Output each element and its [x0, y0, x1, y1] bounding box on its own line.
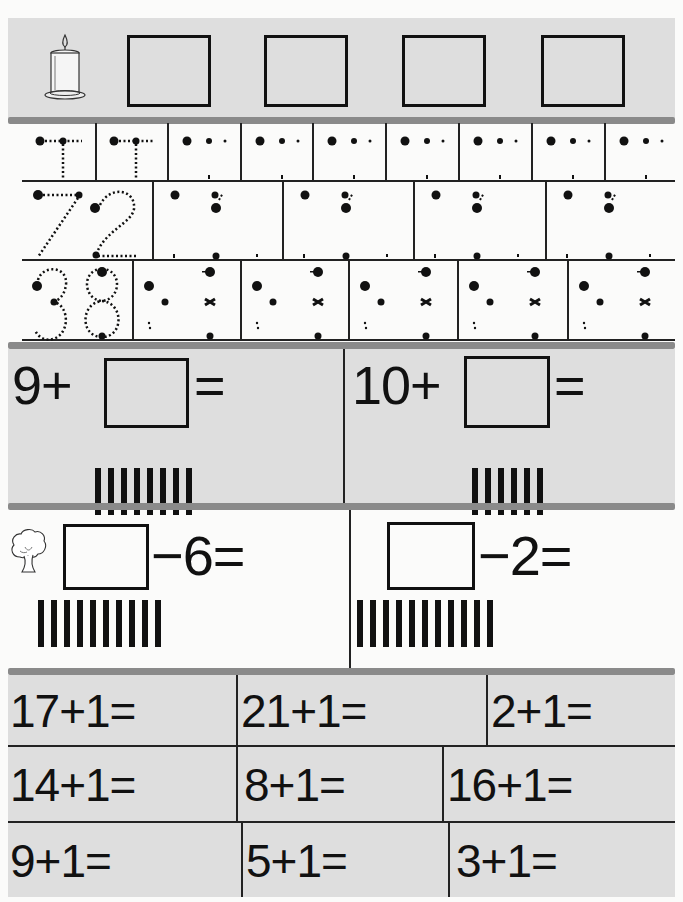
equation-right: −6= [151, 528, 245, 584]
trace-number-38-guide [0, 255, 135, 345]
equation: 21+1= [241, 688, 366, 734]
equation: 2+1= [491, 688, 592, 734]
tally-marks-10 [38, 600, 161, 647]
answer-box-4[interactable] [541, 35, 625, 107]
answer-box-sub-1[interactable] [63, 524, 149, 590]
equation: 14+1= [10, 762, 135, 808]
candle-icon [40, 32, 90, 102]
section-divider [8, 503, 675, 510]
equation: 5+1= [246, 838, 347, 884]
equation-right: −2= [478, 528, 572, 584]
answer-box-3[interactable] [402, 35, 486, 107]
tally-marks-11 [357, 600, 493, 647]
equation-left: 10+ [352, 358, 441, 412]
tree-icon [8, 527, 48, 577]
equation: 8+1= [244, 762, 345, 808]
panel-divider [343, 349, 345, 504]
trace-number-38-dots [132, 255, 682, 345]
answer-box-add-1[interactable] [104, 358, 189, 428]
panel-divider [349, 510, 351, 670]
trace-number-72-guide [0, 175, 155, 265]
equation: 3+1= [456, 838, 557, 884]
equation-equals: = [554, 358, 585, 412]
equation: 9+1= [10, 838, 111, 884]
equation: 16+1= [447, 762, 572, 808]
equation-left: 9+ [12, 358, 72, 412]
answer-box-sub-2[interactable] [387, 522, 475, 590]
trace-number-72-dots [152, 175, 682, 265]
section-divider [8, 668, 675, 675]
answer-box-add-2[interactable] [464, 356, 550, 428]
equation-equals: = [194, 358, 225, 412]
section-divider [8, 342, 675, 349]
answer-box-2[interactable] [264, 35, 348, 107]
answer-box-1[interactable] [127, 35, 211, 107]
equation: 17+1= [10, 688, 135, 734]
